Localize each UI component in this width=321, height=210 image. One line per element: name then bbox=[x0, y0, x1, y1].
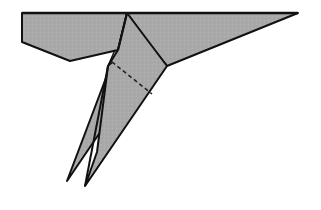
left-wing bbox=[22, 13, 127, 61]
paper-airplane-diagram: folded paper airplane, underside view bbox=[0, 0, 321, 210]
airplane-illustration bbox=[0, 0, 321, 210]
